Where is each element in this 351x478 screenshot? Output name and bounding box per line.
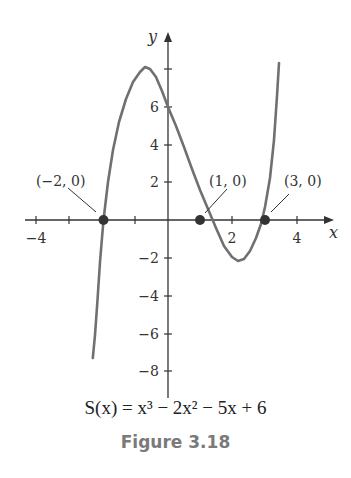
point-label-1: (1, 0) <box>209 173 247 189</box>
y-axis: 6 4 2 −2 −4 −6 −8 y <box>138 27 172 398</box>
figure-caption: Figure 3.18 <box>0 432 351 452</box>
y-tick-neg8: −8 <box>138 363 159 379</box>
x-tick-4: 4 <box>293 230 302 246</box>
y-axis-arrow-icon <box>164 32 172 42</box>
equation-caption: S(x) = x³ − 2x² − 5x + 6 <box>0 397 351 419</box>
x-tick-neg4: −4 <box>26 230 47 246</box>
y-tick-neg4: −4 <box>138 288 159 304</box>
y-tick-neg2: −2 <box>138 250 159 266</box>
point-leaders <box>68 188 289 213</box>
function-curve <box>93 63 279 358</box>
y-axis-label: y <box>147 27 158 46</box>
y-tick-neg6: −6 <box>138 326 159 342</box>
point-label-3: (3, 0) <box>284 173 322 189</box>
y-tick-6: 6 <box>150 99 159 115</box>
y-tick-4: 4 <box>150 137 159 153</box>
x-axis-label: x <box>329 223 338 242</box>
point-1-0 <box>195 215 205 225</box>
x-axis: −4 2 4 x <box>25 216 338 246</box>
x-tick-2: 2 <box>228 230 237 246</box>
point-neg2-0 <box>99 215 109 225</box>
y-tick-2: 2 <box>150 174 159 190</box>
point-label-neg2: (−2, 0) <box>36 173 85 189</box>
point-3-0 <box>260 215 270 225</box>
